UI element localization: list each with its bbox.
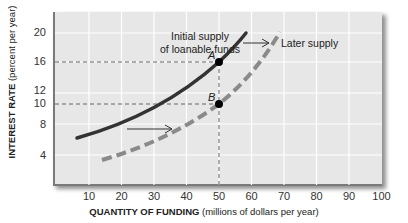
shift-arrow-lower [127, 125, 172, 133]
y-tick-16: 16 [24, 55, 46, 67]
y-axis-label: INTEREST RATE (percent per year) [6, 2, 17, 162]
x-axis-label-bold: QUANTITY OF FUNDING [89, 206, 199, 217]
y-axis-label-units: (percent per year) [6, 6, 17, 84]
x-tick-40: 40 [175, 190, 199, 202]
y-tick-20: 20 [24, 26, 46, 38]
y-tick-10: 10 [24, 97, 46, 109]
initial-supply-label-line2: of loanable funds [150, 43, 250, 56]
x-tick-80: 80 [305, 190, 329, 202]
point-a [215, 58, 223, 66]
y-axis-label-bold: INTEREST RATE [6, 84, 17, 159]
y-tick-4: 4 [24, 149, 46, 161]
point-b [215, 100, 223, 108]
x-tick-70: 70 [272, 190, 296, 202]
x-tick-60: 60 [240, 190, 264, 202]
y-tick-12: 12 [24, 84, 46, 96]
x-tick-10: 10 [77, 190, 101, 202]
x-tick-30: 30 [142, 190, 166, 202]
initial-supply-label: Initial supply of loanable funds [150, 30, 250, 56]
x-tick-50: 50 [207, 190, 231, 202]
point-a-label: A [208, 49, 215, 61]
x-axis-label-units: (millions of dollars per year) [199, 206, 318, 217]
initial-supply-label-line1: Initial supply [150, 30, 250, 43]
x-tick-20: 20 [110, 190, 134, 202]
later-supply-label: Later supply [281, 37, 338, 50]
x-axis-label: QUANTITY OF FUNDING (millions of dollars… [0, 206, 408, 217]
y-tick-8: 8 [24, 118, 46, 130]
point-b-label: B [208, 91, 215, 103]
x-tick-90: 90 [337, 190, 361, 202]
x-tick-100: 100 [370, 190, 394, 202]
